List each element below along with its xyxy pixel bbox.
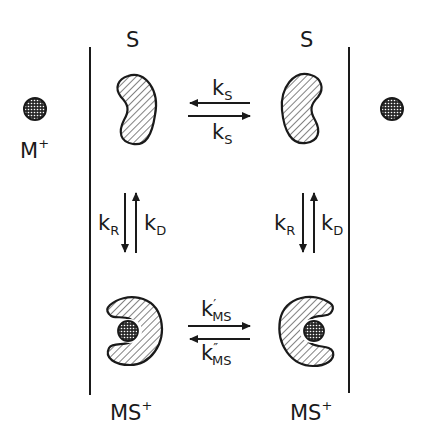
ion-complex-right-icon bbox=[304, 321, 324, 341]
rate-kms-forward: k′MS bbox=[201, 296, 232, 324]
rate-kms-reverse: k″MS bbox=[201, 340, 232, 368]
substrate-label-left: S bbox=[126, 28, 139, 52]
rate-kR-right: kR bbox=[274, 211, 295, 238]
rate-ks-bottom: kS bbox=[212, 120, 232, 147]
rate-kD-right: kD bbox=[321, 211, 343, 238]
complex-label-left: MS+ bbox=[110, 398, 152, 425]
rate-kR-left: kR bbox=[98, 211, 119, 238]
substrate-left-shape bbox=[117, 75, 155, 144]
rate-kD-left: kD bbox=[144, 211, 166, 238]
ion-right-icon bbox=[381, 98, 403, 120]
complex-label-right: MS+ bbox=[290, 398, 332, 425]
rate-ks-top: kS bbox=[212, 76, 232, 103]
ion-label-left: M+ bbox=[20, 136, 49, 163]
substrate-label-right: S bbox=[300, 28, 313, 52]
ion-complex-left-icon bbox=[118, 321, 138, 341]
transport-diagram: S S M+ kS kS kR kD kR kD k′MS bbox=[0, 0, 426, 439]
ion-left-icon bbox=[24, 98, 46, 120]
substrate-right-shape bbox=[282, 74, 322, 143]
